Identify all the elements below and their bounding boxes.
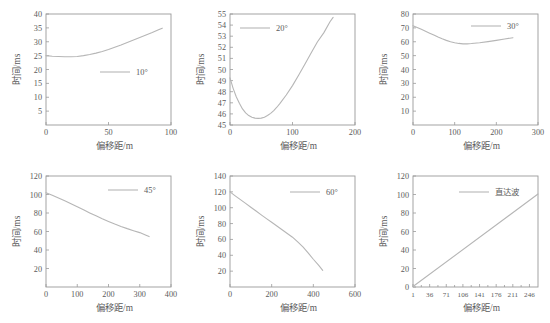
x-tick-label: 100 xyxy=(449,128,461,137)
y-tick-label: 47 xyxy=(218,99,226,108)
x-axis-label: 偏移距/m xyxy=(280,140,318,151)
y-tick-label: 48 xyxy=(218,88,226,97)
x-tick-label: 176 xyxy=(491,291,502,299)
x-tick-label: 100 xyxy=(286,128,298,137)
x-tick-label: 71 xyxy=(443,291,451,299)
x-tick-label: 211 xyxy=(508,291,519,299)
data-curve xyxy=(413,26,513,44)
chart-panel-20deg: 45464748495051525354550100200偏移距/m时间/ms2… xyxy=(184,0,367,161)
y-tick-label: 46 xyxy=(218,110,226,119)
chart-panel-30deg: 10203040506070800100200300偏移距/m时间/ms30° xyxy=(367,0,550,161)
panel-60deg: 204060801001201400200400600偏移距/m时间/ms60° xyxy=(184,162,367,323)
y-tick-label: 80 xyxy=(34,209,42,218)
y-tick-label: 10 xyxy=(401,107,409,116)
plot-frame xyxy=(46,14,171,125)
panel-45deg: 204060801001200100200300400偏移距/m时间/ms45° xyxy=(0,162,183,323)
x-tick-label: 200 xyxy=(490,128,502,137)
x-tick-label: 200 xyxy=(349,128,361,137)
data-curve xyxy=(46,193,149,237)
x-tick-label: 100 xyxy=(71,290,83,299)
y-tick-label: 100 xyxy=(30,191,42,200)
y-tick-label: 5 xyxy=(38,107,42,116)
x-tick-label: 200 xyxy=(102,290,114,299)
legend-label: 30° xyxy=(507,22,519,31)
x-tick-label: 200 xyxy=(266,290,278,299)
y-axis-label: 时间/ms xyxy=(11,53,22,85)
data-curve xyxy=(230,192,323,270)
x-tick-label: 300 xyxy=(532,128,544,137)
y-tick-label: 40 xyxy=(218,251,226,260)
x-tick-label: 300 xyxy=(134,290,146,299)
figure-container: 510152025303540050100偏移距/m时间/ms10° 45464… xyxy=(0,0,550,323)
x-tick-label: 0 xyxy=(228,290,232,299)
y-tick-label: 140 xyxy=(214,172,226,181)
x-tick-label: 0 xyxy=(228,128,232,137)
plot-frame xyxy=(413,14,538,125)
y-tick-label: 55 xyxy=(218,10,226,19)
x-axis-label: 偏移距/m xyxy=(463,302,501,313)
x-tick-label: 600 xyxy=(349,290,361,299)
y-tick-label: 20 xyxy=(401,93,409,102)
x-tick-label: 0 xyxy=(44,128,48,137)
y-tick-label: 50 xyxy=(218,66,226,75)
y-tick-label: 0 xyxy=(405,283,409,292)
y-axis-label: 时间/ms xyxy=(195,53,206,85)
x-tick-label: 141 xyxy=(474,291,485,299)
x-tick-label: 36 xyxy=(426,291,434,299)
y-tick-label: 35 xyxy=(34,24,42,33)
legend-label: 45° xyxy=(144,186,156,195)
chart-panel-60deg: 204060801001201400200400600偏移距/m时间/ms60° xyxy=(184,162,367,323)
y-tick-label: 40 xyxy=(34,246,42,255)
y-tick-label: 49 xyxy=(218,77,226,86)
y-tick-label: 51 xyxy=(218,54,226,63)
panel-30deg: 10203040506070800100200300偏移距/m时间/ms30° xyxy=(367,0,550,161)
x-tick-label: 0 xyxy=(44,290,48,299)
y-tick-label: 60 xyxy=(401,228,409,237)
y-axis-label: 时间/ms xyxy=(378,53,389,85)
data-curve xyxy=(413,194,538,287)
y-tick-label: 60 xyxy=(218,235,226,244)
legend-label: 10° xyxy=(136,68,148,77)
data-curve xyxy=(46,28,162,57)
x-axis-label: 偏移距/m xyxy=(96,140,134,151)
x-tick-label: 400 xyxy=(307,290,319,299)
y-axis-label: 时间/ms xyxy=(195,215,206,247)
x-tick-label: 0 xyxy=(411,128,415,137)
y-tick-label: 40 xyxy=(401,66,409,75)
y-tick-label: 53 xyxy=(218,32,226,41)
y-tick-label: 70 xyxy=(401,24,409,33)
panel-direct-wave: 02040608010012013671106141176211246偏移距/m… xyxy=(367,162,550,323)
y-tick-label: 15 xyxy=(34,79,42,88)
legend-label: 20° xyxy=(276,24,288,33)
x-tick-label: 400 xyxy=(165,290,177,299)
y-axis-label: 时间/ms xyxy=(378,215,389,247)
y-tick-label: 52 xyxy=(218,43,226,52)
y-tick-label: 20 xyxy=(401,265,409,274)
y-tick-label: 80 xyxy=(401,10,409,19)
y-tick-label: 45 xyxy=(218,121,226,130)
plot-frame xyxy=(230,14,355,125)
x-tick-label: 106 xyxy=(458,291,469,299)
y-tick-label: 100 xyxy=(397,191,409,200)
y-tick-label: 80 xyxy=(401,209,409,218)
x-tick-label: 246 xyxy=(524,291,535,299)
y-tick-label: 20 xyxy=(34,66,42,75)
y-tick-label: 30 xyxy=(401,79,409,88)
y-tick-label: 20 xyxy=(34,265,42,274)
y-tick-label: 30 xyxy=(34,38,42,47)
x-axis-label: 偏移距/m xyxy=(280,302,318,313)
chart-panel-direct-wave: 02040608010012013671106141176211246偏移距/m… xyxy=(367,162,550,323)
y-tick-label: 54 xyxy=(218,21,226,30)
y-tick-label: 80 xyxy=(218,220,226,229)
legend-label: 直达波 xyxy=(495,187,520,197)
y-axis-label: 时间/ms xyxy=(11,215,22,247)
x-tick-label: 1 xyxy=(411,291,415,299)
plot-frame xyxy=(413,176,538,287)
x-axis-label: 偏移距/m xyxy=(96,302,134,313)
y-tick-label: 60 xyxy=(401,38,409,47)
panel-10deg: 510152025303540050100偏移距/m时间/ms10° xyxy=(0,0,183,161)
y-tick-label: 10 xyxy=(34,93,42,102)
y-tick-label: 40 xyxy=(401,246,409,255)
y-tick-label: 120 xyxy=(397,172,409,181)
y-tick-label: 120 xyxy=(30,172,42,181)
